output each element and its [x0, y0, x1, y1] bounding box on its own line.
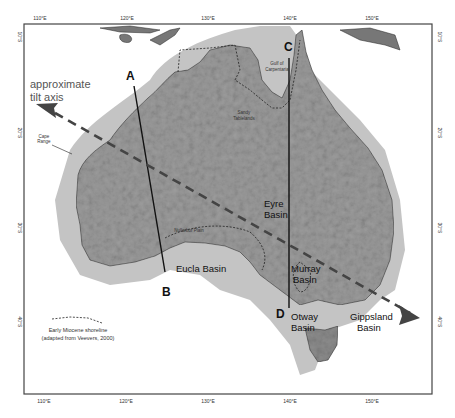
svg-text:Tablelands: Tablelands	[233, 116, 255, 121]
svg-text:Murray: Murray	[291, 263, 321, 274]
svg-text:Range: Range	[37, 139, 51, 144]
longitude-ticks-top: 110°E 120°E 130°E 140°E 150°E	[33, 15, 379, 21]
section-label-a: A	[126, 69, 135, 83]
svg-text:30°S: 30°S	[437, 223, 443, 235]
svg-text:(adapted from Veevers, 2000): (adapted from Veevers, 2000)	[42, 335, 115, 341]
svg-text:10°S: 10°S	[17, 32, 23, 44]
svg-text:Gulf of: Gulf of	[270, 61, 284, 66]
latitude-ticks-right: 10°S 20°S 30°S 40°S	[437, 32, 443, 329]
longitude-ticks-bottom: 110°E 120°E 130°E 140°E 150°E	[37, 398, 379, 404]
section-label-d: D	[276, 307, 285, 321]
svg-text:Basin: Basin	[264, 209, 288, 220]
svg-text:Eyre: Eyre	[264, 198, 284, 209]
svg-text:Nullarbor Plain: Nullarbor Plain	[174, 228, 204, 233]
svg-text:Carpentaria: Carpentaria	[265, 67, 289, 72]
svg-text:130°E: 130°E	[201, 15, 215, 21]
svg-text:Basin: Basin	[357, 322, 381, 333]
svg-text:110°E: 110°E	[37, 398, 51, 404]
svg-text:Sandy: Sandy	[238, 110, 252, 115]
svg-text:20°S: 20°S	[17, 128, 23, 140]
svg-text:30°S: 30°S	[17, 223, 23, 235]
australia-map: 110°E 120°E 130°E 140°E 150°E 110°E 120°…	[0, 0, 455, 418]
svg-text:20°S: 20°S	[437, 128, 443, 140]
svg-text:120°E: 120°E	[119, 398, 133, 404]
svg-text:140°E: 140°E	[283, 15, 297, 21]
svg-text:120°E: 120°E	[120, 15, 134, 21]
svg-text:150°E: 150°E	[365, 398, 379, 404]
latitude-ticks-left: 10°S 20°S 30°S 40°S	[17, 32, 23, 329]
svg-text:150°E: 150°E	[365, 15, 379, 21]
section-label-c: C	[284, 40, 293, 54]
svg-text:Otway: Otway	[291, 311, 318, 322]
svg-text:110°E: 110°E	[33, 15, 47, 21]
svg-text:40°S: 40°S	[437, 317, 443, 329]
svg-text:Basin: Basin	[291, 322, 315, 333]
svg-text:Gippsland: Gippsland	[350, 311, 393, 322]
svg-text:10°S: 10°S	[437, 32, 443, 44]
svg-text:approximate: approximate	[30, 78, 91, 90]
section-label-b: B	[162, 285, 171, 299]
svg-text:130°E: 130°E	[201, 398, 215, 404]
svg-text:tilt axis: tilt axis	[30, 91, 64, 103]
svg-text:140°E: 140°E	[283, 398, 297, 404]
svg-text:Basin: Basin	[293, 274, 317, 285]
svg-text:Eucla Basin: Eucla Basin	[176, 263, 226, 274]
svg-text:40°S: 40°S	[17, 317, 23, 329]
svg-text:Early Miocene shoreline: Early Miocene shoreline	[49, 327, 108, 333]
